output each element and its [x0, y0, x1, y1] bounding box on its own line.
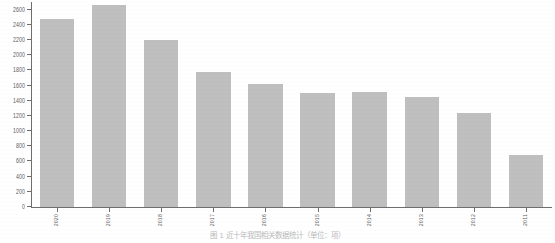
bar	[40, 19, 74, 207]
x-tick-label: 2017	[209, 214, 215, 226]
x-tick-mark	[474, 208, 475, 212]
y-tick-label: 2600	[13, 3, 25, 15]
y-tick-label: 400	[16, 170, 25, 182]
x-tick-mark	[109, 208, 110, 212]
x-tick-mark	[422, 208, 423, 212]
y-tick-label: 2400	[13, 18, 25, 30]
x-tick-mark	[318, 208, 319, 212]
x-tick-label: 2013	[418, 214, 424, 226]
x-tick-mark	[370, 208, 371, 212]
x-tick-label: 2012	[470, 214, 476, 226]
bar	[457, 113, 491, 207]
x-tick-label: 2011	[522, 214, 528, 226]
x-tick-label: 2019	[105, 214, 111, 226]
bar	[196, 72, 230, 207]
y-tick-label: 1800	[13, 64, 25, 76]
x-tick-mark	[265, 208, 266, 212]
y-tick-label: 0	[22, 200, 25, 212]
x-tick-mark	[57, 208, 58, 212]
x-tick-label: 2020	[53, 214, 59, 226]
y-tick-label: 1600	[13, 79, 25, 91]
y-tick-label: 2200	[13, 33, 25, 45]
y-tick-label: 2000	[13, 49, 25, 61]
y-tick-label: 1000	[13, 124, 25, 136]
bar	[405, 97, 439, 207]
bar	[352, 92, 386, 207]
bar	[300, 93, 334, 207]
y-tick-label: 600	[16, 155, 25, 167]
bars-container	[31, 2, 552, 207]
y-tick-label: 1200	[13, 109, 25, 121]
bar	[509, 155, 543, 207]
bar-chart-figure: 0200400600800100012001400160018002000220…	[0, 0, 555, 243]
x-tick-label: 2018	[157, 214, 163, 226]
y-tick-label: 1400	[13, 94, 25, 106]
x-tick-mark	[161, 208, 162, 212]
x-tick-label: 2014	[366, 214, 372, 226]
bar	[248, 84, 282, 207]
bar	[92, 5, 126, 207]
bar	[144, 40, 178, 207]
x-tick-mark	[213, 208, 214, 212]
figure-caption: 图 1 近十年我国相关数据统计（单位：项）	[0, 231, 555, 241]
x-tick-mark	[526, 208, 527, 212]
x-tick-label: 2016	[261, 214, 267, 226]
y-tick-label: 800	[16, 140, 25, 152]
x-tick-label: 2015	[314, 214, 320, 226]
y-tick-label: 200	[16, 185, 25, 197]
